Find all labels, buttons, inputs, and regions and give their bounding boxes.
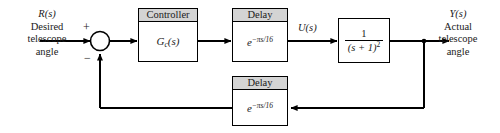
input-line-1: Desired xyxy=(31,21,64,32)
controller-block-header: Controller xyxy=(139,9,197,22)
output-line-1: Actual xyxy=(444,21,472,32)
controller-gain-symbol: G xyxy=(157,35,165,47)
summing-junction-plus-sign: + xyxy=(83,21,90,33)
output-symbol: Y(s) xyxy=(450,8,467,19)
controller-block[interactable]: Controller Gc(s) xyxy=(138,8,198,62)
plant-denominator-base: (s + 1) xyxy=(348,42,377,53)
controller-transfer-function: Gc(s) xyxy=(157,35,180,49)
summing-junction-circle xyxy=(91,32,110,51)
output-signal-label: Y(s) Actual telescope angle xyxy=(422,8,494,58)
controller-block-body: Gc(s) xyxy=(139,22,197,61)
block-diagram-canvas: R(s) Desired telescope angle Y(s) Actual… xyxy=(0,0,500,133)
input-line-2: telescope xyxy=(27,33,66,44)
feedback-delay-exponent: −πs/16 xyxy=(252,101,273,110)
plant-numerator: 1 xyxy=(345,28,383,39)
forward-delay-exponent: −πs/16 xyxy=(252,35,273,44)
forward-delay-block[interactable]: Delay e−πs/16 xyxy=(232,8,288,62)
input-signal-label: R(s) Desired telescope angle xyxy=(12,8,82,58)
feedback-delay-block[interactable]: Delay e−πs/16 xyxy=(232,76,288,126)
forward-delay-block-body: e−πs/16 xyxy=(233,22,287,61)
plant-denominator-exponent: 2 xyxy=(376,40,380,49)
plant-block[interactable]: 1 (s + 1)2 xyxy=(338,18,390,63)
output-line-2: telescope xyxy=(438,33,477,44)
plant-denominator: (s + 1)2 xyxy=(345,41,383,53)
forward-delay-expression: e−πs/16 xyxy=(247,35,273,48)
input-line-3: angle xyxy=(36,46,59,57)
input-symbol: R(s) xyxy=(38,8,56,19)
feedback-delay-block-header: Delay xyxy=(233,77,287,90)
output-line-3: angle xyxy=(447,46,470,57)
feedback-delay-expression: e−πs/16 xyxy=(247,101,273,114)
control-signal-label: U(s) xyxy=(298,22,317,33)
controller-gain-arg: (s) xyxy=(168,35,180,47)
feedback-delay-block-body: e−πs/16 xyxy=(233,90,287,125)
plant-transfer-function: 1 (s + 1)2 xyxy=(345,28,383,53)
plant-block-body: 1 (s + 1)2 xyxy=(339,19,389,62)
summing-junction-minus-sign: − xyxy=(84,52,91,64)
forward-delay-block-header: Delay xyxy=(233,9,287,22)
